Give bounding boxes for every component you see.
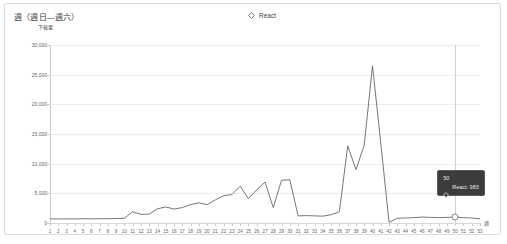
x-axis-tick-mark xyxy=(455,224,456,226)
x-axis-tick-label: 16 xyxy=(171,229,176,234)
x-axis-tick-label: 52 xyxy=(469,229,474,234)
x-axis-tick-mark xyxy=(149,224,150,226)
x-axis-tick-mark xyxy=(331,224,332,226)
x-axis-tick-label: 45 xyxy=(411,229,416,234)
x-axis-tick-mark xyxy=(75,224,76,226)
x-axis-tick-mark xyxy=(100,224,101,226)
y-axis-tick-label: 20,000 xyxy=(32,101,47,107)
x-axis-tick-mark xyxy=(50,224,51,226)
x-axis-tick-label: 26 xyxy=(254,229,259,234)
x-axis-tick-mark xyxy=(174,224,175,226)
x-axis-tick-mark xyxy=(406,224,407,226)
x-axis-tick-label: 19 xyxy=(196,229,201,234)
x-axis-tick-mark xyxy=(381,224,382,226)
x-axis-tick-mark xyxy=(257,224,258,226)
x-axis-tick-label: 20 xyxy=(205,229,210,234)
x-axis-tick-mark xyxy=(480,224,481,226)
x-axis-tick-label: 34 xyxy=(320,229,325,234)
y-axis-tick-label: 25,000 xyxy=(32,72,47,78)
x-axis-tick-label: 32 xyxy=(304,229,309,234)
x-axis-tick-label: 50 xyxy=(453,229,458,234)
x-axis-tick-mark xyxy=(67,224,68,226)
x-axis-tick-mark xyxy=(199,224,200,226)
x-axis-tick-label: 25 xyxy=(246,229,251,234)
x-axis-tick-mark xyxy=(108,224,109,226)
x-axis-tick-mark xyxy=(58,224,59,226)
x-axis-tick-mark xyxy=(133,224,134,226)
x-axis-tick-label: 5 xyxy=(82,229,85,234)
x-axis-tick-mark xyxy=(348,224,349,226)
x-axis-tick-label: 24 xyxy=(238,229,243,234)
tooltip-series-row: React: 983 xyxy=(443,183,479,191)
x-axis-unit-label: 週 xyxy=(484,219,489,226)
y-axis-tick-label: 30,000 xyxy=(32,42,47,48)
x-axis-tick-mark xyxy=(91,224,92,226)
y-axis-tick-label: 5,000 xyxy=(34,190,47,196)
x-axis-tick-mark xyxy=(290,224,291,226)
x-axis-tick-mark xyxy=(232,224,233,226)
x-axis-tick-mark xyxy=(472,224,473,226)
x-axis-tick-label: 53 xyxy=(477,229,482,234)
tooltip-header: 50 xyxy=(443,174,479,182)
x-axis-tick-label: 47 xyxy=(428,229,433,234)
x-axis-tick-label: 30 xyxy=(287,229,292,234)
x-axis-tick-label: 2 xyxy=(57,229,60,234)
x-axis-tick-mark xyxy=(430,224,431,226)
x-axis-tick-label: 1 xyxy=(49,229,52,234)
x-axis-tick-mark xyxy=(439,224,440,226)
x-axis-tick-mark xyxy=(158,224,159,226)
x-axis-tick-label: 38 xyxy=(353,229,358,234)
x-axis-tick-label: 4 xyxy=(74,229,77,234)
x-axis-tick-mark xyxy=(282,224,283,226)
x-axis-tick-label: 22 xyxy=(221,229,226,234)
x-axis-tick-label: 29 xyxy=(279,229,284,234)
x-axis-tick-label: 31 xyxy=(296,229,301,234)
x-axis-tick-label: 3 xyxy=(65,229,68,234)
x-axis-tick-mark xyxy=(306,224,307,226)
x-axis-ticks: 1234567891011121314151617181920212223242… xyxy=(50,224,481,238)
y-axis-tick-label: 15,000 xyxy=(32,131,47,137)
chart-tooltip: 50React: 983 xyxy=(437,170,485,196)
y-axis-unit-label: 下載量 xyxy=(38,23,53,30)
x-axis-tick-label: 49 xyxy=(444,229,449,234)
x-axis-tick-mark xyxy=(83,224,84,226)
x-axis-tick-mark xyxy=(207,224,208,226)
x-axis-tick-mark xyxy=(422,224,423,226)
x-axis-tick-mark xyxy=(224,224,225,226)
x-axis-tick-label: 48 xyxy=(436,229,441,234)
x-axis-tick-mark xyxy=(447,224,448,226)
x-axis-tick-mark xyxy=(315,224,316,226)
x-axis-tick-mark xyxy=(248,224,249,226)
diamond-outline-icon xyxy=(443,184,449,190)
x-axis-tick-label: 7 xyxy=(98,229,101,234)
x-axis-tick-label: 35 xyxy=(329,229,334,234)
hover-crosshair-line xyxy=(455,45,456,223)
x-axis-tick-mark xyxy=(356,224,357,226)
x-axis-tick-label: 43 xyxy=(395,229,400,234)
chart-legend: React xyxy=(248,12,276,19)
plot-area: 05,00010,00015,00020,00025,00030,00050Re… xyxy=(50,45,480,223)
x-axis-tick-label: 37 xyxy=(345,229,350,234)
x-axis-tick-mark xyxy=(240,224,241,226)
x-axis-tick-label: 33 xyxy=(312,229,317,234)
x-axis-tick-label: 14 xyxy=(155,229,160,234)
x-axis-tick-mark xyxy=(191,224,192,226)
x-axis-tick-label: 41 xyxy=(378,229,383,234)
x-axis-tick-mark xyxy=(364,224,365,226)
x-axis-tick-label: 23 xyxy=(229,229,234,234)
x-axis-tick-label: 10 xyxy=(122,229,127,234)
x-axis-tick-mark xyxy=(414,224,415,226)
x-axis-tick-label: 51 xyxy=(461,229,466,234)
x-axis-tick-mark xyxy=(389,224,390,226)
x-axis-tick-label: 46 xyxy=(420,229,425,234)
x-axis-tick-label: 21 xyxy=(213,229,218,234)
x-axis-tick-label: 11 xyxy=(130,229,135,234)
x-axis-tick-label: 12 xyxy=(138,229,143,234)
x-axis-tick-mark xyxy=(339,224,340,226)
legend-item-react[interactable]: React xyxy=(259,12,276,19)
hover-data-point[interactable] xyxy=(452,214,459,221)
x-axis-tick-mark xyxy=(265,224,266,226)
x-axis-tick-label: 8 xyxy=(107,229,110,234)
x-axis-tick-label: 6 xyxy=(90,229,93,234)
x-axis-tick-mark xyxy=(215,224,216,226)
